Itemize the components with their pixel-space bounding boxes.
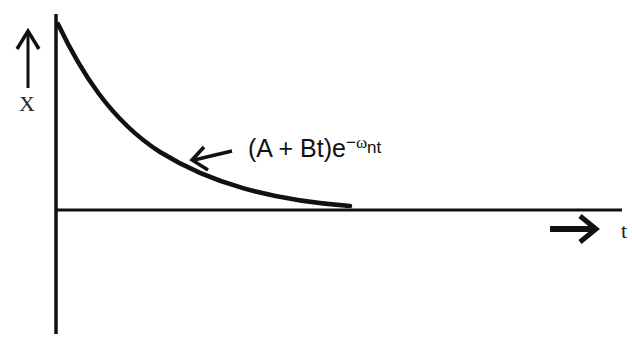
formula-exp-omega: ω (356, 133, 367, 152)
curve-pointer-arrow-icon (192, 147, 232, 170)
formula-exp-sub: nt (367, 138, 381, 157)
x-axis-arrow-icon (550, 216, 596, 242)
y-axis-arrow-icon (17, 31, 39, 88)
formula-base: (A + Bt)e (248, 134, 346, 162)
formula-exp-sign: − (346, 133, 356, 152)
y-axis-label: X (19, 91, 35, 116)
curve-formula-label: (A + Bt)e−ωnt (248, 133, 382, 162)
damped-response-diagram: X t (A + Bt)e−ωnt (0, 0, 632, 341)
response-curve (58, 24, 350, 206)
x-axis-label: t (621, 218, 627, 243)
